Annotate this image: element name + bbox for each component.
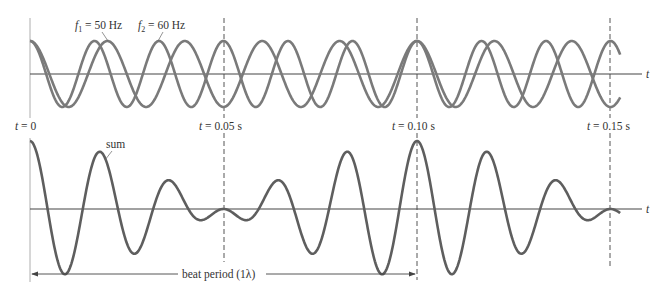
sum-leader-line — [105, 151, 112, 160]
beat-frequency-diagram: t f1 = 50 Hz f2 = 60 Hz t = 0 t = 0.05 s… — [0, 0, 664, 290]
bottom-axis-label: t — [646, 203, 650, 215]
time-label-0-05: t = 0.05 s — [199, 120, 242, 132]
time-marker-lines — [224, 18, 610, 280]
wave2-label: f2 = 60 Hz — [138, 19, 185, 34]
time-label-0-10: t = 0.10 s — [392, 120, 435, 132]
sum-wave-curve — [30, 141, 620, 274]
sum-label: sum — [106, 138, 125, 150]
top-axis-label: t — [646, 68, 650, 80]
wave2-leader-line — [158, 32, 163, 41]
time-label-0-15: t = 0.15 s — [587, 120, 630, 132]
time-label-0: t = 0 — [15, 120, 36, 132]
wave1-label: f1 = 50 Hz — [75, 19, 122, 34]
wave1-leader-line — [102, 32, 108, 41]
beat-period-label: beat period (1λ) — [182, 268, 255, 281]
